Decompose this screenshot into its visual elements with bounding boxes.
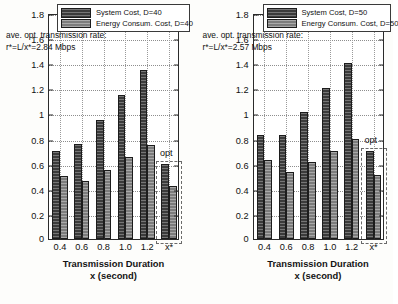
bar-system-cost — [118, 95, 126, 239]
x-axis-tick-mark — [264, 235, 265, 239]
y-axis-tick-label: 1.2 — [31, 85, 49, 95]
y-axis-tick-label: 0.8 — [236, 136, 254, 146]
annotation-d50: ave. opt. transmission rate: r*=L/x*=2.5… — [203, 30, 304, 53]
bar-system-cost — [344, 63, 352, 239]
x-axis-title-line-2: x (second) — [48, 270, 179, 282]
y-axis-tick-mark — [49, 140, 53, 141]
x-axis-tick-mark — [169, 235, 170, 239]
y-axis-tick-mark — [49, 165, 53, 166]
legend-label-energy-cost: Energy Consum. Cost, D=50 — [302, 19, 398, 28]
x-axis-tick-mark — [330, 235, 331, 239]
y-axis-tick-label: 0.6 — [236, 161, 254, 171]
legend-item-energy-cost: Energy Consum. Cost, D=50 — [267, 18, 387, 29]
bar-energy-cost — [169, 186, 177, 239]
bar-group — [322, 15, 338, 239]
x-axis-tick-label: x* — [165, 242, 173, 252]
y-axis-tick-mark — [254, 115, 258, 116]
bar-system-cost — [52, 151, 60, 239]
x-axis-title-d40: Transmission Duration x (second) — [48, 258, 179, 282]
x-axis-tick-label: 0.8 — [302, 242, 315, 252]
y-axis-tick-mark — [254, 15, 258, 16]
x-axis-title-line-1: Transmission Duration — [253, 258, 384, 270]
bar-energy-cost — [286, 172, 294, 239]
x-axis-tick-label: 1.0 — [119, 242, 132, 252]
y-axis-tick-mark — [379, 140, 383, 141]
bar-energy-cost — [330, 151, 338, 239]
annotation-line-2: r*=L/x*=2.84 Mbps — [6, 42, 107, 54]
y-axis-tick-mark — [254, 165, 258, 166]
y-axis-tick-label: 1.8 — [236, 10, 254, 20]
x-axis-title-d50: Transmission Duration x (second) — [253, 258, 384, 282]
bar-system-cost — [74, 144, 82, 239]
y-axis-tick-mark — [174, 40, 178, 41]
x-axis-tick-mark — [125, 235, 126, 239]
y-axis-tick-mark — [174, 190, 178, 191]
legend-swatch-system-cost — [267, 8, 297, 18]
x-axis-tick-label: 0.6 — [75, 242, 88, 252]
y-axis-tick-mark — [174, 215, 178, 216]
x-axis-tick-label: 1.0 — [324, 242, 337, 252]
bar-system-cost — [257, 135, 265, 239]
x-axis-tick-label: 0.8 — [97, 242, 110, 252]
y-axis-tick-label: 1.2 — [236, 85, 254, 95]
y-axis-tick-mark — [174, 165, 178, 166]
chart-panel-d40: Ave. Total System Cost and Total Energy … — [0, 0, 197, 304]
y-axis-tick-mark — [379, 190, 383, 191]
y-axis-tick-mark — [174, 65, 178, 66]
annotation-d40: ave. opt. transmission rate: r*=L/x*=2.8… — [6, 30, 107, 53]
legend-d40: System Cost, D=40 Energy Consum. Cost, D… — [57, 4, 190, 32]
y-axis-tick-mark — [379, 65, 383, 66]
bar-group — [117, 15, 133, 239]
legend-item-system-cost: System Cost, D=50 — [267, 8, 387, 19]
x-axis-title-line-1: Transmission Duration — [48, 258, 179, 270]
bar-energy-cost — [352, 139, 360, 239]
legend-d50: System Cost, D=50 Energy Consum. Cost, D… — [263, 4, 391, 32]
legend-label-system-cost: System Cost, D=40 — [96, 8, 162, 17]
y-axis-tick-mark — [254, 140, 258, 141]
x-axis-tick-mark — [60, 235, 61, 239]
bar-energy-cost — [308, 162, 316, 239]
bar-energy-cost — [60, 176, 68, 239]
x-axis-tick-mark — [352, 235, 353, 239]
bar-system-cost — [322, 88, 330, 239]
y-axis-tick-mark — [174, 90, 178, 91]
bar-energy-cost — [104, 170, 112, 239]
y-axis-tick-mark — [174, 115, 178, 116]
y-axis-tick-label: 0.4 — [236, 186, 254, 196]
y-axis-tick-label: 1 — [243, 110, 253, 120]
bar-group — [366, 15, 382, 239]
y-axis-tick-mark — [254, 65, 258, 66]
x-axis-tick-label: x* — [369, 242, 377, 252]
bar-energy-cost — [125, 157, 133, 239]
y-axis-tick-mark — [49, 115, 53, 116]
y-axis-tick-mark — [49, 65, 53, 66]
y-axis-tick-mark — [254, 215, 258, 216]
x-axis-tick-mark — [82, 235, 83, 239]
opt-label-d40: opt — [160, 148, 173, 158]
y-axis-tick-label: 1 — [39, 110, 49, 120]
legend-label-system-cost: System Cost, D=50 — [302, 8, 368, 17]
x-axis-tick-mark — [104, 235, 105, 239]
y-axis-tick-label: 0.8 — [31, 136, 49, 146]
x-axis-tick-label: 1.2 — [141, 242, 154, 252]
annotation-line-2: r*=L/x*=2.57 Mbps — [203, 42, 304, 54]
x-axis-tick-mark — [308, 235, 309, 239]
legend-swatch-energy-cost — [267, 19, 297, 29]
y-axis-tick-label: 1.8 — [31, 10, 49, 20]
y-axis-tick-mark — [379, 115, 383, 116]
bar-group — [161, 15, 177, 239]
bar-system-cost — [279, 135, 287, 239]
opt-label-d50: opt — [365, 135, 378, 145]
y-axis-tick-mark — [379, 90, 383, 91]
y-axis-tick-mark — [49, 215, 53, 216]
x-axis-tick-label: 0.6 — [280, 242, 293, 252]
bar-energy-cost — [374, 175, 382, 239]
legend-swatch-energy-cost — [61, 19, 91, 29]
bar-system-cost — [300, 112, 308, 239]
legend-item-energy-cost: Energy Consum. Cost, D=40 — [61, 18, 186, 29]
x-axis-tick-mark — [374, 235, 375, 239]
legend-item-system-cost: System Cost, D=40 — [61, 8, 186, 19]
legend-label-energy-cost: Energy Consum. Cost, D=40 — [96, 19, 193, 28]
y-axis-tick-mark — [254, 190, 258, 191]
